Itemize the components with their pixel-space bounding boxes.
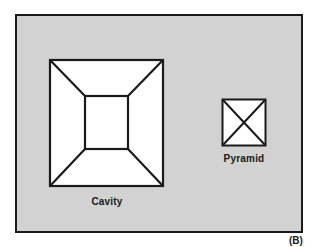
diagram-figure xyxy=(0,0,316,247)
cavity-shape xyxy=(50,60,163,186)
pyramid-shape xyxy=(223,100,266,146)
pyramid-label: Pyramid xyxy=(224,153,265,164)
figure-tag: (B) xyxy=(289,235,303,246)
cavity-label: Cavity xyxy=(91,196,122,207)
